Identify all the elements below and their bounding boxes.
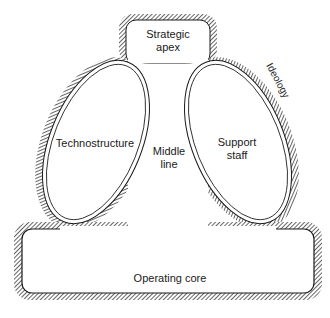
strategic-apex-label-2: apex bbox=[156, 41, 180, 53]
strategic-apex-label: Strategic bbox=[146, 28, 190, 40]
operating-core-label: Operating core bbox=[134, 272, 207, 284]
support-staff-label: Support bbox=[218, 136, 257, 148]
organization-diagram: Strategic apex Technostructure Middle li… bbox=[0, 0, 330, 318]
technostructure-label: Technostructure bbox=[56, 137, 134, 149]
middle-line-label-2: line bbox=[160, 158, 177, 170]
support-staff-label-2: staff bbox=[227, 149, 249, 161]
middle-line-label: Middle bbox=[153, 145, 185, 157]
